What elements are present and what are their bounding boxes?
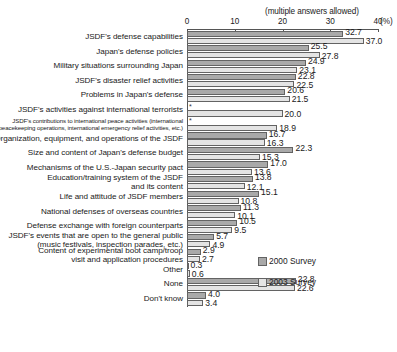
category-label-line: Don't know — [144, 294, 183, 303]
x-axis-tick-0: 0 — [177, 17, 197, 26]
category-label-6: JSDF's contributions to international pe… — [0, 117, 183, 132]
bar-2000-15 — [187, 249, 201, 255]
category-label-4: Problems in Japan's defense — [81, 90, 183, 99]
category-label-2: Military situations surrounding Japan — [53, 61, 183, 70]
bar-value-2003-4: 21.5 — [292, 95, 309, 104]
bar-value-2003-13: 9.5 — [234, 226, 246, 235]
category-label-line: Japan's defense policies — [96, 47, 183, 56]
category-label-line: JSDF's events that are open to the gener… — [8, 231, 183, 240]
bar-2000-12 — [187, 205, 241, 211]
legend-swatch-2000 — [258, 257, 267, 266]
bar-value-2003-18: 3.4 — [205, 299, 217, 308]
category-label-line: peacekeeping operations, international e… — [0, 124, 183, 131]
bar-value-2000-16: 0.3 — [190, 261, 202, 270]
category-label-line: Problems in Japan's defense — [81, 90, 183, 99]
bar-2003-2 — [187, 67, 297, 73]
category-label-line: None — [164, 279, 183, 288]
category-label-line: National defenses of overseas countries — [41, 207, 183, 216]
category-label-line: Life and attitude of JSDF members — [60, 192, 183, 201]
missing-data-marker-6: * — [189, 117, 192, 124]
bar-2003-7 — [187, 139, 265, 145]
category-label-18: Don't know — [144, 294, 183, 303]
bar-value-2000-14: 5.7 — [216, 232, 228, 241]
category-label-12: National defenses of overseas countries — [41, 207, 183, 216]
category-label-1: Japan's defense policies — [96, 47, 183, 56]
bar-2003-18 — [187, 300, 203, 306]
bar-2003-1 — [187, 52, 320, 58]
x-axis-unit-label: (%) — [380, 17, 397, 26]
category-label-line: Size and content of Japan's defense budg… — [28, 148, 183, 157]
bar-2000-2 — [187, 60, 306, 66]
bar-value-2000-11: 15.1 — [261, 188, 278, 197]
category-label-3: JSDF's disaster relief activities — [75, 76, 183, 85]
bar-2000-3 — [187, 74, 296, 80]
bar-2000-4 — [187, 89, 285, 95]
category-label-line: Organization, equipment, and operations … — [0, 134, 183, 143]
bar-2000-14 — [187, 234, 214, 240]
category-label-7: Organization, equipment, and operations … — [0, 134, 183, 143]
bar-value-2000-8: 22.3 — [295, 144, 312, 153]
bar-2003-3 — [187, 81, 294, 87]
bar-2000-10 — [187, 176, 253, 182]
x-axis-tick-30: 30 — [320, 17, 340, 26]
category-label-0: JSDF's defense capabilities — [85, 32, 183, 41]
category-label-line: Military situations surrounding Japan — [53, 61, 183, 70]
bar-2003-11 — [187, 198, 239, 204]
x-axis-tick-20: 20 — [273, 17, 293, 26]
legend-swatch-2003 — [258, 278, 267, 287]
bar-2003-10 — [187, 183, 245, 189]
category-label-line: Education/training system of the JSDF — [47, 173, 183, 182]
bar-value-2000-10: 13.8 — [255, 173, 272, 182]
bar-value-2003-0: 37.0 — [366, 37, 383, 46]
bar-2003-6 — [187, 125, 277, 131]
category-label-11: Life and attitude of JSDF members — [60, 192, 183, 201]
bar-2003-12 — [187, 212, 235, 218]
bar-2000-16 — [187, 263, 189, 269]
category-label-line: Mechanisms of the U.S.-Japan security pa… — [27, 163, 183, 172]
bar-value-2000-9: 17.0 — [270, 159, 287, 168]
category-label-line: Other — [163, 265, 183, 274]
bar-2000-18 — [187, 292, 206, 298]
bar-2000-1 — [187, 45, 309, 51]
category-label-5: JSDF's activities against international … — [18, 105, 183, 114]
bar-2003-16 — [187, 270, 190, 276]
bar-2003-5 — [187, 110, 283, 116]
category-label-13: Defense exchange with foreign counterpar… — [27, 221, 183, 230]
category-label-line: JSDF's contributions to international pe… — [0, 117, 183, 124]
category-label-16: Other — [163, 265, 183, 274]
bar-value-2003-5: 20.0 — [285, 110, 302, 119]
bar-value-2000-3: 22.8 — [298, 72, 315, 81]
category-label-10: Education/training system of the JSDFand… — [47, 173, 183, 191]
bar-2000-7 — [187, 132, 267, 138]
bar-value-2000-12: 11.3 — [243, 203, 259, 212]
bar-2003-8 — [187, 154, 260, 160]
bar-value-2003-15: 2.7 — [202, 255, 214, 264]
bar-value-2000-1: 25.5 — [311, 42, 328, 51]
legend-label-2000: 2000 Survey — [269, 256, 316, 266]
bar-value-2000-0: 32.7 — [345, 28, 362, 37]
category-label-line: JSDF's activities against international … — [18, 105, 183, 114]
category-label-line: JSDF's defense capabilities — [85, 32, 183, 41]
category-label-17: None — [164, 279, 183, 288]
x-axis-tick-10: 10 — [225, 17, 245, 26]
category-label-line: visit and application procedures — [38, 255, 183, 264]
bar-2000-0 — [187, 31, 343, 37]
legend-label-2003: 2003 Survey — [269, 277, 316, 287]
missing-data-marker-5: * — [189, 103, 192, 110]
category-label-line: JSDF's disaster relief activities — [75, 76, 183, 85]
category-label-8: Size and content of Japan's defense budg… — [28, 148, 183, 157]
chart-note: (multiple answers allowed) — [265, 7, 359, 16]
category-label-line: and its content — [47, 182, 183, 191]
bar-2003-4 — [187, 96, 290, 102]
bar-2003-0 — [187, 38, 364, 44]
category-label-9: Mechanisms of the U.S.-Japan security pa… — [27, 163, 183, 172]
category-label-line: Content of experimental boot camp/troop — [38, 246, 183, 255]
category-label-line: Defense exchange with foreign counterpar… — [27, 221, 183, 230]
category-label-15: Content of experimental boot camp/troopv… — [38, 246, 183, 264]
bar-2003-9 — [187, 169, 252, 175]
bar-2000-13 — [187, 220, 237, 226]
